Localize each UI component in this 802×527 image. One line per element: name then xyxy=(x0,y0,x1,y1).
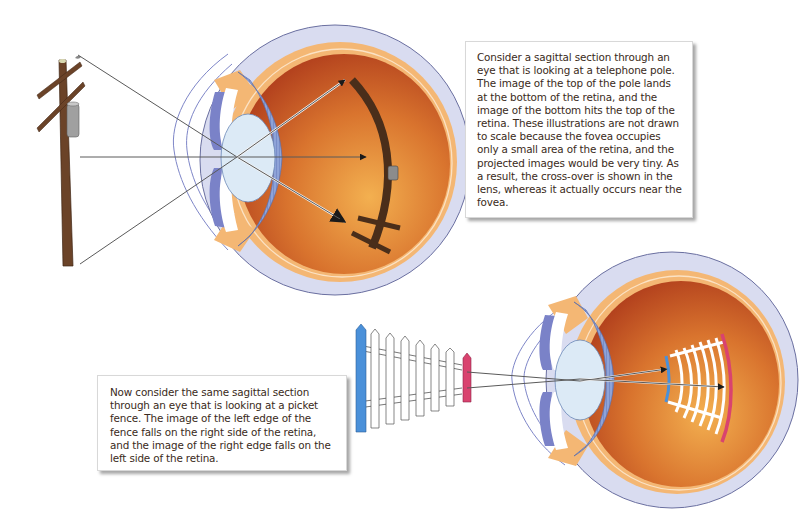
callout-box-bottom: Now consider the same sagittal section t… xyxy=(97,375,347,471)
eye-diagram-bottom xyxy=(512,252,798,508)
callout-text-bottom: Now consider the same sagittal section t… xyxy=(110,386,331,464)
callout-box-top: Consider a sagittal section through an e… xyxy=(465,41,693,218)
eye-diagram-top xyxy=(173,25,470,295)
picket-fence-icon xyxy=(356,324,471,432)
callout-text-top: Consider a sagittal section through an e… xyxy=(477,51,682,208)
telephone-pole-icon xyxy=(37,56,85,266)
